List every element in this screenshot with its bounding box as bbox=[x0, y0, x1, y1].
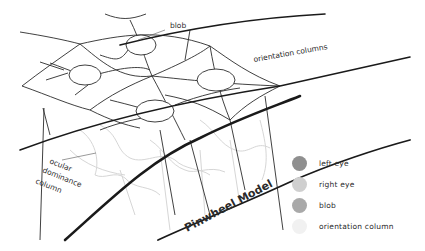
left-eye-swatch-icon bbox=[292, 156, 307, 171]
blob-right bbox=[197, 69, 235, 91]
legend-item-right-eye: right eye bbox=[292, 174, 422, 195]
blob-swatch-icon bbox=[292, 198, 307, 213]
legend-label: orientation column bbox=[319, 222, 394, 231]
legend-item-left-eye: left eye bbox=[292, 153, 422, 174]
legend-item-blob: blob bbox=[292, 195, 422, 216]
diagram-title: Pinwheel Model bbox=[182, 177, 274, 234]
orientation-column-swatch-icon bbox=[292, 219, 307, 234]
ocular-dominance-underlay bbox=[70, 120, 270, 230]
label-blob: blob bbox=[170, 21, 186, 30]
legend-label: left eye bbox=[319, 159, 349, 168]
legend-item-orientation-column: orientation column bbox=[292, 216, 422, 237]
layer-thick-curve bbox=[65, 96, 300, 240]
blob-bottom bbox=[136, 100, 174, 122]
blob-left bbox=[69, 65, 101, 85]
pinwheel-diagram: blob orientation columns ocular dominanc… bbox=[0, 0, 425, 251]
legend: left eye right eye blob orientation colu… bbox=[292, 153, 422, 237]
right-eye-swatch-icon bbox=[292, 177, 307, 192]
legend-label: blob bbox=[319, 201, 336, 210]
label-orientation-columns: orientation columns bbox=[253, 42, 328, 64]
legend-label: right eye bbox=[319, 180, 354, 189]
